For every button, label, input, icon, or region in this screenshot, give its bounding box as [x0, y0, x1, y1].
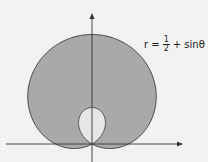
equation-lhs: r =: [144, 39, 160, 50]
y-axis-arrow-icon: [90, 13, 95, 19]
polar-plot: [0, 0, 208, 162]
fraction-denominator: 2: [164, 45, 169, 53]
equation-rhs: + sinθ: [173, 39, 205, 50]
fraction: 1 2: [163, 36, 170, 53]
x-axis-arrow-icon: [177, 142, 183, 147]
equation-label: r = 1 2 + sinθ: [144, 36, 205, 53]
